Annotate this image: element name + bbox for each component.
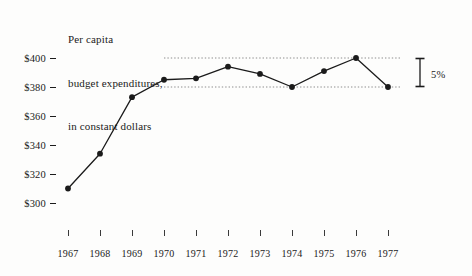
data-point-1975 <box>321 68 327 74</box>
data-point-1976 <box>353 55 359 61</box>
data-point-1969 <box>129 94 135 100</box>
data-point-1974 <box>289 84 295 90</box>
plot-area <box>0 0 472 276</box>
data-point-1970 <box>161 77 167 83</box>
data-series-markers <box>65 55 391 191</box>
data-point-1971 <box>193 75 199 81</box>
percent-range-label: 5% <box>431 69 445 80</box>
data-point-1977 <box>385 84 391 90</box>
data-point-1967 <box>65 186 71 192</box>
data-point-1973 <box>257 71 263 77</box>
chart-figure: Per capita budget expenditures, in const… <box>0 0 472 276</box>
data-point-1968 <box>97 151 103 157</box>
data-series-line <box>68 58 388 189</box>
percent-range-bracket-icon <box>416 58 425 87</box>
data-point-1972 <box>225 64 231 70</box>
